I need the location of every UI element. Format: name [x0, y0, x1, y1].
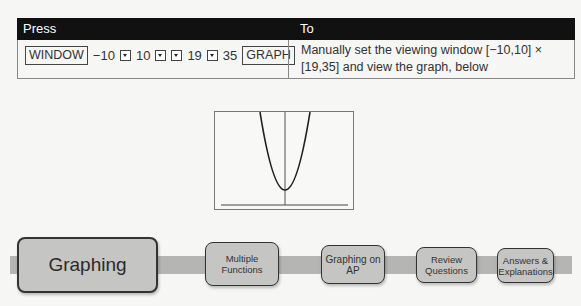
down-arrow-key-icon: [207, 50, 218, 61]
value-xmax: 10: [136, 48, 150, 63]
graph-key: GRAPH: [242, 46, 294, 65]
calculator-graph-screen: [214, 111, 354, 210]
nav-item-multiple-functions[interactable]: Multiple Functions: [205, 242, 279, 286]
down-arrow-key-icon: [155, 50, 166, 61]
nav-item-review-questions[interactable]: Review Questions: [416, 247, 477, 283]
table-header-to: To: [287, 18, 575, 40]
nav-item-graphing-on-ap[interactable]: Graphing on AP: [321, 245, 385, 284]
key-sequence: WINDOW −10 10 19 35 GRAPH: [25, 46, 295, 65]
parabola-graph: [215, 112, 355, 211]
header-press-label: Press: [23, 18, 56, 40]
nav-item-answers-explanations[interactable]: Answers & Explanations: [497, 248, 554, 283]
down-arrow-key-icon: [171, 50, 182, 61]
value-ymax: 35: [223, 48, 237, 63]
value-xmin: −10: [93, 48, 115, 63]
down-arrow-key-icon: [120, 50, 131, 61]
value-ymin: 19: [187, 48, 201, 63]
header-to-label: To: [300, 18, 314, 40]
window-key: WINDOW: [25, 46, 88, 65]
press-cell: WINDOW −10 10 19 35 GRAPH: [17, 40, 288, 79]
table-header-press: Press: [17, 18, 275, 40]
nav-item-graphing[interactable]: Graphing: [17, 237, 158, 293]
to-cell: Manually set the viewing window [−10,10]…: [288, 40, 575, 79]
